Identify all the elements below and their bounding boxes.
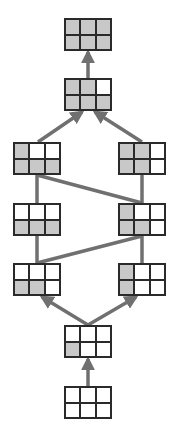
grid-cell-filled xyxy=(30,221,43,235)
arrow-n3l-to-n2 xyxy=(38,112,82,142)
grid-cell-empty xyxy=(46,144,59,158)
grid-cell-filled xyxy=(120,160,133,174)
grid-cell-filled xyxy=(120,281,133,295)
grid-cell-empty xyxy=(46,281,59,295)
grid-cell-empty xyxy=(97,388,110,402)
grid-cell-empty xyxy=(151,265,164,279)
grid-cell-empty xyxy=(151,281,164,295)
grid-node-n4l xyxy=(13,203,61,236)
grid-cell-filled xyxy=(120,205,133,219)
grid-cell-empty xyxy=(81,388,94,402)
lattice-diagram xyxy=(0,0,175,438)
grid-cell-filled xyxy=(30,160,43,174)
grid-cell-filled xyxy=(81,36,94,50)
grid-node-n4r xyxy=(118,203,166,236)
grid-node-n6 xyxy=(64,325,112,358)
grid-cell-filled xyxy=(120,144,133,158)
grid-cell-empty xyxy=(151,205,164,219)
grid-node-n2 xyxy=(64,78,112,111)
arrow-n3r-to-n2 xyxy=(95,112,142,142)
grid-cell-empty xyxy=(30,144,43,158)
grid-cell-filled xyxy=(81,80,94,94)
grid-cell-filled xyxy=(97,20,110,34)
grid-cell-empty xyxy=(135,205,148,219)
arrow-n6-to-n5r xyxy=(88,297,136,325)
arrow-n6-to-n5l xyxy=(42,297,88,325)
grid-cell-empty xyxy=(30,265,43,279)
grid-cell-empty xyxy=(97,80,110,94)
connector-n3l-to-n4r xyxy=(37,175,142,203)
grid-cell-filled xyxy=(30,281,43,295)
grid-cell-empty xyxy=(151,160,164,174)
grid-cell-empty xyxy=(46,265,59,279)
grid-cell-empty xyxy=(97,404,110,418)
grid-cell-filled xyxy=(46,221,59,235)
grid-cell-filled xyxy=(135,144,148,158)
grid-cell-empty xyxy=(66,388,79,402)
grid-cell-filled xyxy=(97,96,110,110)
grid-cell-filled xyxy=(135,221,148,235)
grid-cell-empty xyxy=(66,327,79,341)
grid-cell-filled xyxy=(97,36,110,50)
grid-cell-filled xyxy=(81,96,94,110)
grid-cell-filled xyxy=(120,221,133,235)
grid-cell-filled xyxy=(81,20,94,34)
grid-cell-empty xyxy=(135,265,148,279)
grid-cell-filled xyxy=(66,96,79,110)
grid-node-n3r xyxy=(118,142,166,175)
grid-cell-empty xyxy=(151,221,164,235)
grid-node-n5r xyxy=(118,263,166,296)
grid-cell-filled xyxy=(15,160,28,174)
grid-cell-empty xyxy=(15,205,28,219)
grid-cell-filled xyxy=(15,281,28,295)
grid-cell-filled xyxy=(66,80,79,94)
grid-cell-empty xyxy=(46,205,59,219)
grid-cell-empty xyxy=(81,327,94,341)
grid-cell-filled xyxy=(120,265,133,279)
grid-node-n1 xyxy=(64,18,112,51)
grid-cell-filled xyxy=(135,160,148,174)
grid-cell-empty xyxy=(81,343,94,357)
connector-n4r-to-n5l xyxy=(37,236,142,263)
grid-cell-empty xyxy=(97,343,110,357)
grid-cell-empty xyxy=(66,404,79,418)
grid-cell-empty xyxy=(15,265,28,279)
grid-node-n5l xyxy=(13,263,61,296)
grid-cell-empty xyxy=(30,205,43,219)
grid-cell-filled xyxy=(15,221,28,235)
grid-cell-empty xyxy=(135,281,148,295)
grid-cell-empty xyxy=(81,404,94,418)
grid-cell-filled xyxy=(15,144,28,158)
grid-cell-filled xyxy=(66,36,79,50)
grid-cell-empty xyxy=(151,144,164,158)
grid-cell-filled xyxy=(66,20,79,34)
grid-cell-empty xyxy=(97,327,110,341)
grid-node-n7 xyxy=(64,386,112,419)
grid-node-n3l xyxy=(13,142,61,175)
grid-cell-filled xyxy=(46,160,59,174)
grid-cell-filled xyxy=(66,343,79,357)
